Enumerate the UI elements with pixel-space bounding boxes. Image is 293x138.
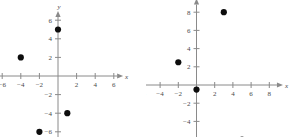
x-tick-label: −6 [0,81,6,89]
data-point [193,86,199,92]
y-tick-label: 6 [187,27,191,35]
y-tick-label: −4 [45,110,53,118]
x-tick-label: 2 [75,81,79,89]
y-tick-label: 6 [49,17,53,25]
data-point [36,129,42,135]
data-point [64,110,70,116]
y-tick-label: 8 [187,9,191,17]
y-tick-label: −2 [183,100,191,108]
x-axis-label: x [284,82,289,90]
right-coordinate-plane: xy−6−4−22468−6−4−22468 [146,0,293,137]
y-axis-label: y [56,3,61,11]
x-tick-label: −2 [175,90,183,98]
y-tick-label: 2 [49,54,53,62]
y-tick-label: −6 [183,136,191,137]
y-tick-label: −2 [45,91,53,99]
y-tick-label: 4 [49,35,53,43]
y-tick-label: 4 [187,45,191,53]
data-point [18,54,24,60]
y-tick-label: −6 [45,128,53,136]
left-coordinate-plane: xy−6−4−2246−6−4−2246 [0,0,146,137]
data-point [239,137,245,138]
x-tick-label: 2 [213,90,217,98]
scatter-plot-left: xy−6−4−2246−6−4−2246 [0,0,146,137]
x-axis-arrow-icon [117,73,123,78]
x-axis-arrow-icon [277,82,283,87]
y-tick-label: −4 [183,118,191,126]
data-point [221,9,227,15]
y-axis-arrow-icon [194,0,199,5]
scatter-plot-figure: xy−6−4−2246−6−4−2246 xy−6−4−22468−6−4−22… [0,0,293,137]
scatter-plot-right: xy−6−4−22468−6−4−22468 [146,0,293,137]
y-tick-label: 2 [187,63,191,71]
x-tick-label: 6 [112,81,116,89]
y-axis-arrow-icon [55,11,60,17]
x-tick-label: 8 [268,90,272,98]
x-tick-label: 4 [231,90,235,98]
x-axis-label: x [124,73,129,81]
x-tick-label: −4 [156,90,164,98]
x-tick-label: 6 [249,90,253,98]
x-tick-label: −4 [17,81,25,89]
data-point [175,59,181,65]
data-point [55,26,61,32]
x-tick-label: −2 [36,81,44,89]
x-tick-label: 4 [93,81,97,89]
